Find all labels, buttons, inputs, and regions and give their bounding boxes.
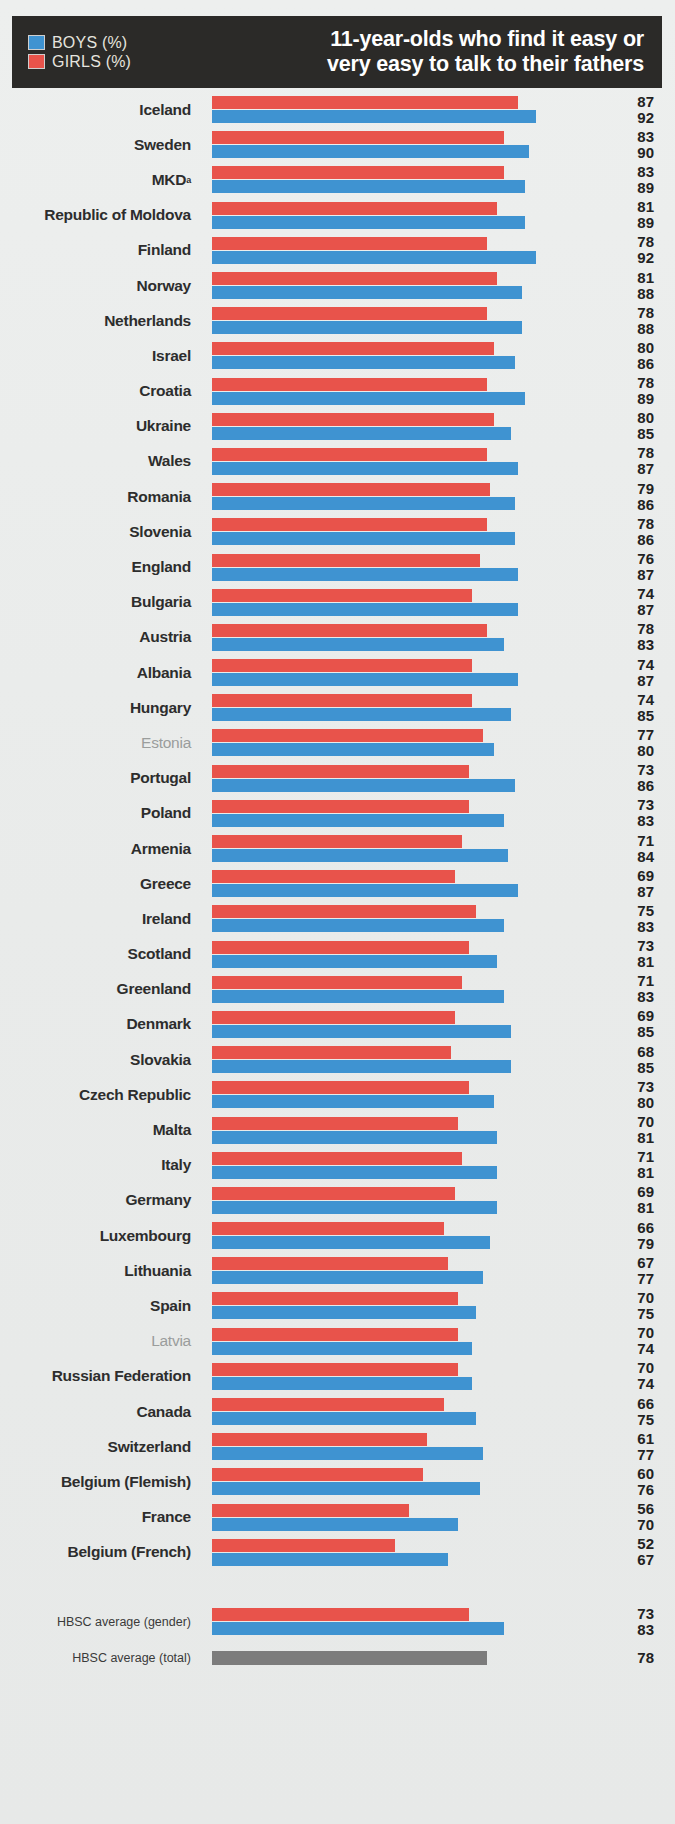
bar-girls (212, 800, 469, 813)
value-labels: 6777 (596, 1253, 654, 1288)
bar-girls (212, 1222, 444, 1235)
bar-group (212, 690, 662, 725)
value-labels: 7883 (596, 620, 654, 655)
country-row: Luxembourg6679 (12, 1218, 662, 1253)
value-boys: 89 (596, 215, 654, 231)
bar-boys (212, 1095, 494, 1108)
value-girls: 70 (596, 1290, 654, 1306)
country-row: Armenia7184 (12, 831, 662, 866)
country-row: Israel8086 (12, 338, 662, 373)
bar-girls (212, 694, 472, 707)
country-label: Spain (12, 1288, 202, 1323)
value-girls: 70 (596, 1114, 654, 1130)
value-girls: 77 (596, 727, 654, 743)
bar-boys (212, 1236, 490, 1249)
value-boys: 85 (596, 708, 654, 724)
country-row: Ireland7583 (12, 901, 662, 936)
bar-group (212, 1394, 662, 1429)
country-row: Bulgaria7487 (12, 585, 662, 620)
legend-label-girls: GIRLS (%) (52, 53, 131, 71)
bar-group (212, 338, 662, 373)
country-label: Norway (12, 268, 202, 303)
value-labels: 6987 (596, 866, 654, 901)
value-labels: 7485 (596, 690, 654, 725)
value-boys: 74 (596, 1376, 654, 1392)
value-boys: 86 (596, 778, 654, 794)
bar-girls (212, 1363, 458, 1376)
value-boys: 80 (596, 743, 654, 759)
bar-boys (212, 568, 518, 581)
bar-boys (212, 321, 522, 334)
bar-girls (212, 1398, 444, 1411)
value-labels: 7583 (596, 901, 654, 936)
bar-girls (212, 835, 462, 848)
value-girls: 83 (596, 129, 654, 145)
bar-boys (212, 1306, 476, 1319)
value-labels: 7887 (596, 444, 654, 479)
bar-group (212, 233, 662, 268)
country-label: Luxembourg (12, 1218, 202, 1253)
bar-girls (212, 96, 518, 109)
country-label: Italy (12, 1148, 202, 1183)
country-label: Sweden (12, 127, 202, 162)
country-label: Slovenia (12, 514, 202, 549)
country-label: Estonia (12, 725, 202, 760)
country-row: Germany6981 (12, 1183, 662, 1218)
value-labels: 8390 (596, 127, 654, 162)
bar-group (212, 620, 662, 655)
bar-group (212, 1359, 662, 1394)
bar-boys (212, 251, 536, 264)
country-row: Croatia7889 (12, 374, 662, 409)
value-girls: 78 (596, 445, 654, 461)
country-row: Russian Federation7074 (12, 1359, 662, 1394)
value-girls: 71 (596, 833, 654, 849)
value-labels: 7181 (596, 1148, 654, 1183)
bar-boys (212, 392, 525, 405)
bar-boys (212, 356, 515, 369)
value-girls: 73 (596, 1079, 654, 1095)
bar-boys (212, 708, 511, 721)
value-boys: 74 (596, 1341, 654, 1357)
bar-group (212, 1077, 662, 1112)
country-row: Portugal7386 (12, 761, 662, 796)
value-girls: 74 (596, 692, 654, 708)
value-girls: 73 (596, 762, 654, 778)
bar-girls (212, 1328, 458, 1341)
bar-boys (212, 1060, 511, 1073)
value-girls: 66 (596, 1220, 654, 1236)
bar-boys (212, 1447, 483, 1460)
bar-boys (212, 1166, 497, 1179)
country-row: Malta7081 (12, 1112, 662, 1147)
country-row: Scotland7381 (12, 937, 662, 972)
value-labels: 7383 (596, 796, 654, 831)
chart-header: BOYS (%) GIRLS (%) 11-year-olds who find… (12, 16, 662, 88)
value-boys: 85 (596, 1024, 654, 1040)
bar-girls (212, 1539, 395, 1552)
bar-girls (212, 342, 494, 355)
bar-girls (212, 272, 497, 285)
country-label: Scotland (12, 937, 202, 972)
bar-girls (212, 1433, 427, 1446)
country-label: Romania (12, 479, 202, 514)
bar-girls (212, 1081, 469, 1094)
value-labels: 5267 (596, 1535, 654, 1570)
bar-group (212, 1218, 662, 1253)
bar-girls (212, 1011, 455, 1024)
bar-boys (212, 603, 518, 616)
bar-girls (212, 166, 504, 179)
value-labels: 5670 (596, 1500, 654, 1535)
chart-page: BOYS (%) GIRLS (%) 11-year-olds who find… (0, 0, 675, 1824)
value-labels: 8086 (596, 338, 654, 373)
country-row: Greenland7183 (12, 972, 662, 1007)
bar-girls (212, 131, 504, 144)
bar-group (212, 127, 662, 162)
country-label: Germany (12, 1183, 202, 1218)
country-label: Lithuania (12, 1253, 202, 1288)
bar-boys (212, 110, 536, 123)
bar-group (212, 303, 662, 338)
average-label: HBSC average (gender) (12, 1604, 202, 1640)
value-girls: 69 (596, 868, 654, 884)
country-label: Latvia (12, 1324, 202, 1359)
country-label: Canada (12, 1394, 202, 1429)
bar-boys (212, 497, 515, 510)
